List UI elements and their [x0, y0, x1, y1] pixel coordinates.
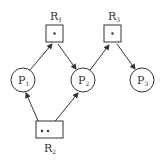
edge-p2-r3: [90, 45, 109, 70]
instance-dot: [111, 32, 113, 34]
process-p2: P2: [71, 68, 95, 92]
resource-r2: R2: [36, 121, 63, 155]
instance-dot: [41, 130, 43, 132]
svg-text:R2: R2: [44, 142, 56, 155]
process-p3: P3: [130, 68, 154, 92]
edge-r3-p3: [117, 44, 135, 69]
resource-allocation-graph: R1 R3 R2 P1 P2 P3: [0, 0, 161, 164]
edge-r1-p2: [58, 44, 76, 69]
svg-text:R1: R1: [50, 10, 62, 23]
svg-text:R3: R3: [108, 10, 120, 23]
resource-r3: R3: [104, 10, 121, 42]
instance-dot: [53, 32, 55, 34]
edge-p1-r1: [30, 44, 52, 70]
resource-r1: R1: [46, 10, 63, 42]
instance-dot: [47, 130, 49, 132]
process-p1: P1: [11, 68, 35, 92]
graph-canvas: R1 R3 R2 P1 P2 P3: [0, 0, 161, 164]
